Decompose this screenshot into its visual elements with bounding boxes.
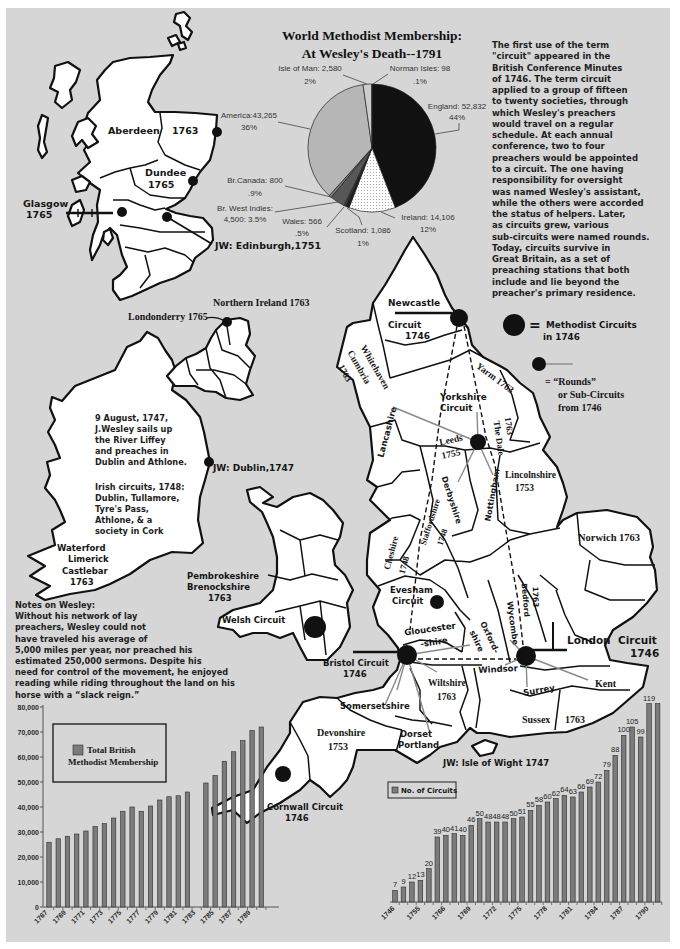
label-devonshire-year: 1753 <box>328 741 348 752</box>
label-lincolnshire-year: 1753 <box>515 483 534 493</box>
label-wiltshire-year: 1763 <box>437 692 456 702</box>
legend-rounds-label3: from 1746 <box>558 402 601 413</box>
circuits-bar <box>647 704 652 902</box>
membership-bar-1784 <box>204 783 208 907</box>
marker-cornwall <box>275 766 291 782</box>
legend-rounds-label2: or Sub-Circuits <box>558 389 624 400</box>
ireland-narrative-line: 9 August, 1747, <box>95 413 168 423</box>
label-evesham-circuit: Circuit <box>392 596 423 606</box>
circuits-data-label: 62 <box>552 789 560 798</box>
circuits-data-label: 64 <box>560 785 568 794</box>
circuits-bar <box>596 782 601 902</box>
intro-text-line: "circuit" appeared in the <box>492 51 610 61</box>
intro-text-line: was named Wesley's assistant, <box>492 187 641 197</box>
circuits-bar <box>477 819 482 902</box>
circuits-data-label: 69 <box>586 777 594 786</box>
circuits-data-label: 20 <box>425 859 433 868</box>
label-london-circuit: Circuit <box>618 634 657 646</box>
marker-glasgow <box>117 207 127 217</box>
intro-text-line: conference, two to four <box>492 141 606 151</box>
pie-percent-br-canada: .9% <box>248 189 262 198</box>
membership-bar-1788 <box>241 741 245 908</box>
pie-percent-scotland: 1% <box>357 239 369 248</box>
marker-edinburgh <box>162 212 172 222</box>
circuits-data-label: 50 <box>509 809 517 818</box>
label-glasgow: Glasgow <box>23 198 68 209</box>
membership-legend-line1: Total British <box>87 745 135 755</box>
circuits-bar <box>588 787 593 902</box>
membership-y-tick-label: 60,000 <box>18 754 40 762</box>
membership-legend-swatch <box>73 745 83 755</box>
circuits-bar <box>655 704 660 902</box>
membership-bar-1767 <box>47 842 51 907</box>
circuits-data-label: 39 <box>433 827 441 836</box>
intro-text-line: sub-circuits were named rounds. <box>492 232 649 242</box>
label-sussex: Sussex <box>522 714 550 725</box>
intro-text-line: Great Britain, as a set of <box>492 254 610 264</box>
circuits-data-label: 105 <box>626 717 639 726</box>
label-welsh-circuit: Welsh Circuit <box>222 615 285 625</box>
circuits-bar <box>520 817 525 902</box>
membership-y-tick-label: 40,000 <box>18 804 40 812</box>
membership-y-tick-label: 70,000 <box>18 729 40 737</box>
label-aberdeen: Aberdeen <box>108 125 160 136</box>
membership-y-tick-label: 10,000 <box>18 879 40 887</box>
label-windsor: Windsor <box>478 663 519 675</box>
circuits-data-label: 12 <box>408 872 416 881</box>
membership-bar-1768 <box>56 839 60 907</box>
circuits-bar <box>418 880 423 902</box>
irish-circuits-line: society in Cork <box>95 526 164 536</box>
notes-text-line: estimated 250,000 sermons. Despite his <box>15 656 202 666</box>
label-yorkshire: Yorkshire <box>439 392 487 402</box>
circuits-data-label: 40 <box>442 825 450 834</box>
circuits-bar <box>503 822 508 902</box>
pie-label-br-west-indies: Br. West Indies: <box>217 204 273 213</box>
ireland-narrative-line: J.Wesley sails up <box>94 424 172 434</box>
marker-aberdeen <box>212 127 222 137</box>
intro-text-line: preachers would be appointed <box>492 153 638 163</box>
circuits-data-label: 9 <box>401 877 405 886</box>
membership-bar-1789 <box>250 731 254 908</box>
intro-text-line: of 1746. The term circuit <box>492 74 611 84</box>
label-wales-year: 1763 <box>208 593 232 603</box>
label-london: London <box>567 634 611 646</box>
label-brenockshire: Brenockshire <box>187 582 250 592</box>
legend-circuits-label: Methodist Circuits <box>546 320 637 330</box>
label-dundee: Dundee <box>145 167 186 178</box>
label-cornwall: Cornwall Circuit <box>267 802 343 812</box>
membership-bar-1774 <box>111 818 115 907</box>
membership-bar-1781 <box>176 796 180 907</box>
pie-slices <box>308 84 436 212</box>
circuits-data-label: 41 <box>450 824 458 833</box>
circuits-legend-label: No. of Circuits <box>401 787 457 795</box>
label-dublin: JW: Dublin,1747 <box>212 463 294 473</box>
label-londonderry: Londonderry 1765 <box>128 311 208 322</box>
membership-bar-1787 <box>231 752 235 907</box>
legend-rounds-label: = “Rounds” <box>545 376 596 387</box>
irish-circuits-line: Athlone, & a <box>95 515 152 525</box>
label-dundee-year: 1765 <box>148 179 174 190</box>
membership-bar-1785 <box>213 776 217 908</box>
label-wiltshire: Wiltshire <box>428 678 466 688</box>
label-somerset: Somersetshire <box>340 701 410 711</box>
pie-label-america: America:43,265 <box>221 111 278 120</box>
label-cornwall-year: 1746 <box>285 813 309 823</box>
pie-percent-ireland: 12% <box>420 225 436 234</box>
membership-legend-line2: Methodist Membership <box>68 757 158 767</box>
circuits-data-label: 50 <box>476 809 484 818</box>
pie-title-line2: At Wesley's Death--1791 <box>302 46 443 61</box>
intro-text-line: as circuits grew, various <box>492 220 609 230</box>
circuits-bar <box>444 835 449 902</box>
circuits-bar <box>460 835 465 902</box>
circuits-data-label: 55 <box>526 800 534 809</box>
membership-bar-1770 <box>74 834 78 907</box>
intro-text-line: responsibility for oversight <box>492 175 623 185</box>
circuits-data-label: 79 <box>603 760 611 769</box>
circuits-bar <box>452 834 457 902</box>
intro-text-line: while the others were accorded <box>492 198 644 208</box>
irish-circuits-line: Irish circuits, 1748: <box>95 482 184 492</box>
label-pembrokeshire: Pembrokeshire <box>187 571 259 581</box>
label-ireland-south-year: 1763 <box>70 577 94 587</box>
intro-text-line: to a circuit. The one having <box>492 164 624 174</box>
pie-label-england: England: 52,832 <box>428 102 487 111</box>
